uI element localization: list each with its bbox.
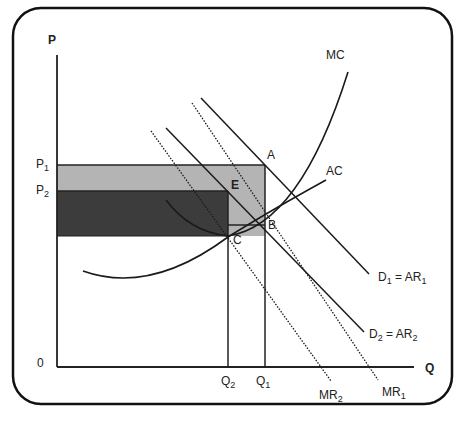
point-e-label: E <box>231 178 239 192</box>
d1-label: D1 = AR1 <box>378 270 426 286</box>
point-c-label: C <box>233 233 242 247</box>
monopoly-diagram: P Q 0 P1 P2 Q2 Q1 MC AC D1 = AR1 D2 = AR… <box>0 0 460 437</box>
x-axis-label: Q <box>425 361 434 375</box>
ac-label: AC <box>326 164 343 178</box>
origin-label: 0 <box>37 356 44 370</box>
point-a-label: A <box>267 148 275 162</box>
mc-label: MC <box>326 48 345 62</box>
point-b-label: B <box>268 218 276 232</box>
d2-label: D2 = AR2 <box>369 327 417 343</box>
y-axis-label: P <box>48 33 56 47</box>
